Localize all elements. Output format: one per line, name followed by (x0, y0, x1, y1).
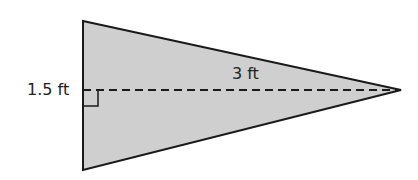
triangle-shape (83, 21, 401, 170)
base-label: 3 ft (232, 64, 259, 83)
height-label: 1.5 ft (27, 80, 69, 99)
